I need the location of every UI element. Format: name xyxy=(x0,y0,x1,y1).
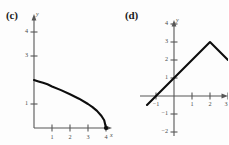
panel-d-y-tick-label-neg2: −2 xyxy=(161,127,168,134)
panel-d-plot: y −1 1 2 3 4 3 2 1 −1 −2 xyxy=(114,0,228,145)
panel-d-y-tick-label-2: 2 xyxy=(165,55,168,62)
panel-c-curve xyxy=(34,80,106,128)
panel-c-plot: y x 1 2 3 4 1 3 4 xyxy=(0,0,114,145)
panel-c-y-tick-label-1: 1 xyxy=(25,99,28,106)
panel-c-x-tick-label-1: 1 xyxy=(50,133,53,140)
panel-d: (d) y −1 1 2 3 4 xyxy=(114,0,228,145)
panel-d-y-tick-label-1: 1 xyxy=(165,73,168,80)
panel-d-x-tick-label-2: 2 xyxy=(208,100,211,107)
panel-c: (c) y x 1 2 3 4 1 3 4 xyxy=(0,0,114,145)
panel-d-x-tick-label-3: 3 xyxy=(224,100,227,107)
panel-c-x-tick-label-4: 4 xyxy=(104,133,107,140)
panel-d-x-axis-arrowhead xyxy=(222,94,229,99)
panel-c-x-tick-label-2: 2 xyxy=(68,133,71,140)
panel-c-x-tick-label-3: 3 xyxy=(86,133,89,140)
panel-d-y-tick-label-neg1: −1 xyxy=(161,109,168,116)
panel-c-y-tick-label-4: 4 xyxy=(25,27,28,34)
panel-d-x-tick-label-neg1: −1 xyxy=(153,100,160,107)
panel-d-y-tick-label-4: 4 xyxy=(165,19,168,26)
panel-d-y-axis-name: y xyxy=(175,16,179,23)
panel-c-y-tick-label-3: 3 xyxy=(25,51,28,58)
panel-c-endpoint-marker xyxy=(104,126,108,130)
panel-d-y-tick-label-3: 3 xyxy=(165,37,168,44)
panel-c-y-axis-name: y xyxy=(35,10,39,17)
panel-c-x-axis-name: x xyxy=(109,131,113,138)
figure-root: (c) y x 1 2 3 4 1 3 4 xyxy=(0,0,228,145)
panel-d-x-tick-label-1: 1 xyxy=(190,100,193,107)
